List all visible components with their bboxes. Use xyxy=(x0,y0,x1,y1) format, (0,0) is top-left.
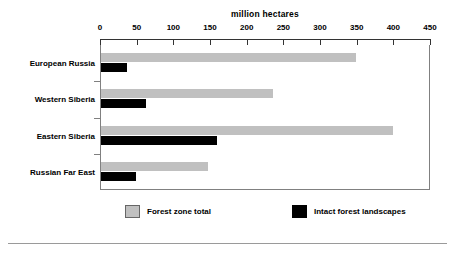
x-tick-mark xyxy=(393,39,394,45)
bar-intact[interactable] xyxy=(101,172,136,181)
x-tick-label: 200 xyxy=(240,23,253,32)
bar-intact[interactable] xyxy=(101,136,217,145)
category-label: European Russia xyxy=(0,59,95,68)
x-tick-mark xyxy=(137,39,138,45)
legend-swatch-icon-intact xyxy=(292,205,307,218)
legend-item-intact-forest-landscapes[interactable]: Intact forest landscapes xyxy=(292,205,406,218)
category-separator-tick xyxy=(94,118,101,119)
category-label: Russian Far East xyxy=(0,167,95,176)
x-axis-title: million hectares xyxy=(100,9,430,19)
x-tick-label: 300 xyxy=(313,23,326,32)
bar-total[interactable] xyxy=(101,162,208,171)
x-tick-mark xyxy=(283,39,284,45)
x-tick-mark xyxy=(210,39,211,45)
x-tick-mark xyxy=(173,39,174,45)
x-axis-line xyxy=(100,39,430,40)
category-label: Western Siberia xyxy=(0,95,95,104)
x-tick-mark xyxy=(430,39,431,45)
legend-label-total: Forest zone total xyxy=(147,207,211,216)
bar-total[interactable] xyxy=(101,89,273,98)
legend-swatch-icon-total xyxy=(125,205,140,218)
x-tick-label: 50 xyxy=(132,23,141,32)
bar-intact[interactable] xyxy=(101,63,127,72)
chart-legend: Forest zone total Intact forest landscap… xyxy=(0,205,455,227)
category-label: Eastern Siberia xyxy=(0,131,95,140)
bar-intact[interactable] xyxy=(101,99,146,108)
x-tick-label: 0 xyxy=(98,23,102,32)
x-tick-label: 350 xyxy=(350,23,363,32)
x-axis-tick-labels: 050100150200250300350400450 xyxy=(0,23,455,35)
footer-divider xyxy=(8,243,447,244)
x-tick-mark xyxy=(320,39,321,45)
x-tick-label: 400 xyxy=(387,23,400,32)
x-tick-mark xyxy=(357,39,358,45)
bar-total[interactable] xyxy=(101,126,393,135)
x-tick-label: 450 xyxy=(423,23,436,32)
legend-item-forest-zone-total[interactable]: Forest zone total xyxy=(125,205,211,218)
bar-chart: million hectares 05010015020025030035040… xyxy=(0,0,455,253)
x-tick-label: 250 xyxy=(277,23,290,32)
legend-label-intact: Intact forest landscapes xyxy=(314,207,406,216)
x-tick-mark xyxy=(247,39,248,45)
x-tick-mark xyxy=(100,39,101,45)
x-tick-label: 100 xyxy=(167,23,180,32)
x-tick-label: 150 xyxy=(203,23,216,32)
category-separator-tick xyxy=(94,154,101,155)
category-separator-tick xyxy=(94,81,101,82)
bar-total[interactable] xyxy=(101,53,356,62)
